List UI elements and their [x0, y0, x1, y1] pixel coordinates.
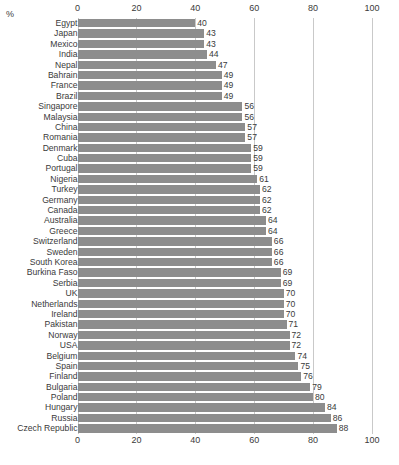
bar-row: Pakistan71 — [0, 319, 399, 329]
bar-value-label: 62 — [262, 184, 272, 194]
bar-row: Nepal47 — [0, 60, 399, 70]
bar-value-label: 57 — [247, 122, 257, 132]
category-label: Sweden — [46, 247, 77, 257]
bar-value-label: 57 — [247, 132, 257, 142]
horizontal-bar-chart: % 020406080100 Egypt40Japan43Mexico43Ind… — [0, 0, 399, 465]
bar-row: Nigeria61 — [0, 174, 399, 184]
category-label: Turkey — [52, 184, 78, 194]
category-label: Ireland — [51, 309, 77, 319]
x-tick-top-40: 40 — [190, 4, 200, 13]
bar-row: Romania57 — [0, 132, 399, 142]
bar-row: India44 — [0, 49, 399, 59]
bar-value-label: 59 — [253, 153, 263, 163]
bar-row: Bahrain49 — [0, 70, 399, 80]
bar-value-label: 75 — [300, 361, 310, 371]
category-label: France — [51, 80, 78, 90]
bar-value-label: 47 — [218, 60, 228, 70]
bar-row: Australia64 — [0, 215, 399, 225]
bar-value-label: 62 — [262, 195, 272, 205]
bar — [78, 414, 331, 422]
category-label: Bahrain — [48, 70, 78, 80]
bar-row: Japan43 — [0, 28, 399, 38]
category-label: Mexico — [50, 39, 77, 49]
bar-value-label: 59 — [253, 143, 263, 153]
bar-row: USA72 — [0, 340, 399, 350]
bar-value-label: 70 — [286, 309, 296, 319]
category-label: India — [59, 49, 78, 59]
category-label: China — [55, 122, 77, 132]
category-label: Cuba — [57, 153, 78, 163]
bar-value-label: 66 — [274, 247, 284, 257]
bar — [78, 331, 290, 339]
x-tick-bottom-100: 100 — [364, 436, 379, 445]
x-tick-bottom-80: 80 — [308, 436, 318, 445]
bar-value-label: 49 — [224, 80, 234, 90]
bar — [78, 300, 284, 308]
bar-row: Egypt40 — [0, 18, 399, 28]
bar-value-label: 76 — [303, 371, 313, 381]
bar-row: Serbia69 — [0, 278, 399, 288]
bar-value-label: 44 — [209, 49, 219, 59]
bar — [78, 61, 216, 69]
bar-value-label: 74 — [297, 351, 307, 361]
bar — [78, 123, 246, 131]
x-tick-bottom-20: 20 — [131, 436, 141, 445]
bar — [78, 102, 243, 110]
bar — [78, 258, 272, 266]
bar — [78, 164, 252, 172]
category-label: Netherlands — [31, 299, 77, 309]
category-label: Burkina Faso — [27, 267, 78, 277]
category-label: USA — [60, 340, 78, 350]
bar — [78, 113, 243, 121]
bar — [78, 289, 284, 297]
bar-value-label: 43 — [206, 39, 216, 49]
bar-row: Brazil49 — [0, 91, 399, 101]
bar — [78, 268, 281, 276]
bar-row: Burkina Faso69 — [0, 267, 399, 277]
bar-value-label: 69 — [283, 267, 293, 277]
bar-row: Sweden66 — [0, 247, 399, 257]
category-label: Brazil — [56, 91, 78, 101]
x-tick-top-100: 100 — [364, 4, 379, 13]
bar-row: Denmark59 — [0, 143, 399, 153]
bar — [78, 352, 296, 360]
category-label: Switzerland — [33, 236, 77, 246]
bar — [78, 393, 314, 401]
bar — [78, 279, 281, 287]
bar-row: Ireland70 — [0, 309, 399, 319]
bar-value-label: 66 — [274, 257, 284, 267]
bar — [78, 19, 196, 27]
bar-value-label: 84 — [327, 402, 337, 412]
bar-value-label: 40 — [197, 18, 207, 28]
category-label: Japan — [54, 28, 77, 38]
bar-row: Singapore56 — [0, 101, 399, 111]
category-label: Singapore — [38, 101, 77, 111]
bar — [78, 81, 222, 89]
category-label: Australia — [44, 215, 77, 225]
bar — [78, 403, 325, 411]
bar-row: Hungary84 — [0, 402, 399, 412]
bar — [78, 362, 299, 370]
category-label: Bulgaria — [46, 382, 78, 392]
bar-value-label: 49 — [224, 70, 234, 80]
category-label: Belgium — [46, 351, 77, 361]
category-label: Russia — [51, 413, 77, 423]
bar — [78, 154, 252, 162]
bar — [78, 71, 222, 79]
bar-row: Turkey62 — [0, 184, 399, 194]
bar — [78, 216, 266, 224]
x-tick-top-60: 60 — [249, 4, 259, 13]
bar-row: Cuba59 — [0, 153, 399, 163]
bar-value-label: 56 — [244, 112, 254, 122]
bar — [78, 320, 287, 328]
bar — [78, 133, 246, 141]
bar-value-label: 59 — [253, 163, 263, 173]
bar-value-label: 80 — [315, 392, 325, 402]
bar-value-label: 61 — [259, 174, 269, 184]
bar — [78, 29, 205, 37]
category-label: Romania — [43, 132, 77, 142]
x-tick-top-80: 80 — [308, 4, 318, 13]
bar-row: Spain75 — [0, 361, 399, 371]
bar-value-label: 66 — [274, 236, 284, 246]
bar-value-label: 72 — [292, 330, 302, 340]
